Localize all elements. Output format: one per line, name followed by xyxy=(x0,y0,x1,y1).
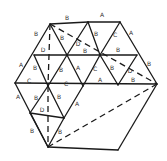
edge-line xyxy=(48,86,64,118)
edge-line xyxy=(48,147,118,150)
edge-line xyxy=(50,24,67,55)
edge-line xyxy=(120,22,157,84)
dashed-line xyxy=(48,84,157,147)
edge-label: A xyxy=(76,64,81,71)
edge-label: B xyxy=(58,128,62,135)
edge-line xyxy=(15,24,50,83)
edge-label: C xyxy=(93,65,97,72)
edge-line xyxy=(118,84,157,150)
edge-line xyxy=(15,83,157,84)
edge-label: B xyxy=(34,94,38,101)
edge-label: B xyxy=(116,46,120,53)
edge-label: B xyxy=(33,64,37,71)
triangulated-hexagon-diagram: BABBDBCADBBABBACBDBCCABABBADBB xyxy=(0,0,167,161)
edge-label: A xyxy=(19,61,24,68)
edge-label: A xyxy=(129,29,134,36)
edge-label: B xyxy=(57,93,61,100)
edge-line xyxy=(64,86,83,118)
edge-label: B xyxy=(94,30,98,37)
edge-label: B xyxy=(60,34,64,41)
edge-line xyxy=(88,22,100,55)
edge-label: B xyxy=(59,66,63,73)
solid-edges xyxy=(15,22,157,150)
edge-line xyxy=(50,22,88,24)
edge-line xyxy=(30,113,64,118)
edge-label: B xyxy=(110,64,114,71)
edge-label: D xyxy=(41,46,46,53)
edge-label: A xyxy=(100,11,105,18)
edge-label: C xyxy=(27,77,31,84)
edge-label: B xyxy=(65,14,69,21)
edge-label: D xyxy=(76,40,81,47)
edge-label: D xyxy=(40,106,45,113)
edge-label: A xyxy=(75,100,80,107)
edge-label: B xyxy=(30,127,34,134)
edge-label: B xyxy=(131,76,135,83)
edge-label: A xyxy=(98,76,103,83)
edge-label: C xyxy=(64,80,68,87)
edge-label: B xyxy=(34,30,38,37)
edge-label: D xyxy=(128,67,133,74)
edge-label: C xyxy=(113,31,117,38)
edge-label: B xyxy=(83,47,87,54)
edge-label: B xyxy=(147,60,151,67)
